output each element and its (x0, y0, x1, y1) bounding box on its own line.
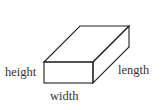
prism-front-face (44, 62, 93, 83)
height-label: height (5, 65, 37, 79)
length-label: length (118, 63, 150, 77)
prism-top-face (44, 26, 129, 62)
width-label: width (50, 89, 79, 103)
rectangular-prism-diagram: height length width (0, 0, 165, 110)
